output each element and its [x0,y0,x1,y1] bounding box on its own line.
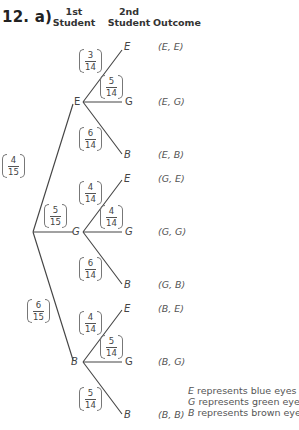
node-g-b: B [124,280,131,290]
node-e-e: E [124,42,130,52]
legend-item-green: G represents green eyes [188,396,299,407]
branch-root-to-b [33,232,73,360]
legend-item-brown: B represents brown eyes [188,407,299,418]
outcome-g-b: (G, B) [158,280,185,290]
node-e-b: B [124,150,131,160]
outcome-g-e: (G, E) [158,174,185,184]
node-first-g: G [72,227,80,237]
legend: E represents blue eyes G represents gree… [188,385,299,418]
header-outcome: Outcome [152,17,202,28]
prob-b-b: 514 [79,387,102,411]
prob-g-e: 414 [79,181,102,205]
outcome-e-b: (E, B) [158,150,184,160]
node-b-g: G [125,357,133,367]
prob-b-g: 514 [100,335,123,359]
outcome-e-g: (E, G) [158,97,185,107]
header-first-student-line1: 1st [52,6,96,17]
prob-e-g: 514 [100,75,123,99]
outcome-b-b: (B, B) [158,410,185,420]
outcome-b-e: (B, E) [158,304,184,314]
prob-g-g: 414 [100,205,123,229]
legend-item-blue: E represents blue eyes [188,385,299,396]
node-first-b: B [71,357,78,367]
question-part-text: a) [35,8,52,26]
header-second-student-line1: 2nd [107,6,151,17]
node-b-e: E [124,304,130,314]
prob-root-b: 615 [27,299,50,323]
question-number-text: 12. [2,8,29,26]
header-second-student: 2nd Student [107,6,151,28]
prob-e-b: 614 [79,127,102,151]
outcome-g-g: (G, G) [158,227,186,237]
header-first-student: 1st Student [52,6,96,28]
prob-root-g: 515 [44,204,67,228]
outcome-b-g: (B, G) [158,357,185,367]
header-first-student-line2: Student [52,17,96,28]
node-b-b: B [124,410,131,420]
node-g-e: E [124,174,130,184]
header-second-student-line2: Student [107,17,151,28]
node-first-e: E [74,97,80,107]
prob-g-b: 614 [79,257,102,281]
question-number: 12. a) [2,8,52,26]
node-g-g: G [125,227,133,237]
prob-b-e: 414 [79,311,102,335]
prob-root-e: 415 [2,154,25,178]
node-e-g: G [125,97,133,107]
prob-e-e: 314 [79,49,102,73]
outcome-e-e: (E, E) [158,42,183,52]
